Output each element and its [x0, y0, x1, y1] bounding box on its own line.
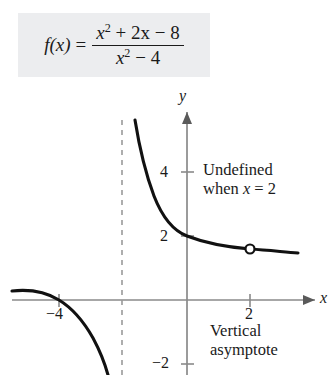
undefined-annotation-line1: Undefined: [203, 160, 276, 179]
hole-open-circle: [246, 245, 255, 254]
undefined-annotation-line2: when x = 2: [203, 179, 276, 198]
vertical-asymptote-annotation: Vertical asymptote: [210, 321, 278, 360]
x-axis-arrowhead: [303, 295, 315, 305]
y-tick-label-2: 2: [160, 227, 168, 245]
y-axis-arrowhead: [182, 112, 192, 124]
x-tick-label-minus-4: −4: [46, 305, 63, 323]
vertical-asymptote-line1: Vertical: [210, 321, 278, 340]
undefined-annotation: Undefined when x = 2: [203, 160, 276, 199]
y-tick-label-minus-2: −2: [152, 354, 169, 372]
vertical-asymptote-line2: asymptote: [210, 340, 278, 359]
curve-left-branch: [12, 290, 108, 375]
y-axis-label: y: [179, 87, 186, 105]
y-tick-label-4: 4: [160, 163, 168, 181]
x-axis-label: x: [320, 289, 327, 307]
rational-function-figure: f(x) = x2 + 2x − 8 x2 − 4 y x 4 2 −2 −4 …: [0, 0, 334, 375]
